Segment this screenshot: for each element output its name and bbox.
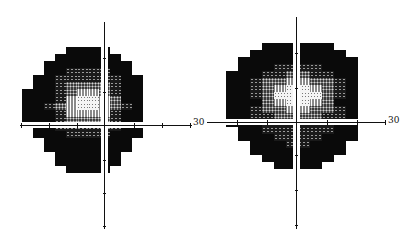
grayscale-cell xyxy=(121,138,132,145)
grayscale-cell xyxy=(88,82,99,89)
grayscale-cell xyxy=(238,85,250,92)
axis-tick xyxy=(295,190,298,191)
grayscale-cell xyxy=(55,145,66,152)
axis-tick xyxy=(295,155,298,156)
grayscale-cell xyxy=(66,68,77,75)
grayscale-cell xyxy=(262,64,274,71)
grayscale-cell xyxy=(274,141,286,148)
grayscale-cell xyxy=(346,64,358,71)
grayscale-cell xyxy=(132,82,143,89)
grayscale-cell xyxy=(310,127,322,134)
grayscale-cell xyxy=(310,64,322,71)
grayscale-cell xyxy=(33,82,44,89)
grayscale-cell xyxy=(250,127,262,134)
grayscale-cell xyxy=(334,92,346,99)
grayscale-cell xyxy=(262,106,274,113)
grayscale-cell xyxy=(334,99,346,106)
grayscale-cell xyxy=(22,110,33,117)
grayscale-cell xyxy=(310,141,322,148)
grayscale-cell xyxy=(274,78,286,85)
grayscale-cell xyxy=(33,103,44,110)
grayscale-cell xyxy=(250,106,262,113)
grayscale-cell xyxy=(322,92,334,99)
grayscale-cell xyxy=(322,43,334,50)
grayscale-cell xyxy=(274,85,286,92)
grayscale-cell xyxy=(310,50,322,57)
grayscale-cell xyxy=(88,145,99,152)
grayscale-cell xyxy=(334,57,346,64)
grayscale-cell xyxy=(226,71,238,78)
grayscale-cell xyxy=(262,50,274,57)
grayscale-cell xyxy=(310,57,322,64)
grayscale-cell xyxy=(110,82,121,89)
grayscale-cell xyxy=(88,89,99,96)
grayscale-cell xyxy=(88,159,99,166)
axis-tick xyxy=(295,53,298,54)
grayscale-cell xyxy=(322,50,334,57)
grayscale-cell xyxy=(121,145,132,152)
grayscale-cell xyxy=(226,85,238,92)
grayscale-cell xyxy=(262,99,274,106)
grayscale-cell xyxy=(132,103,143,110)
axis-tick xyxy=(327,120,328,125)
axis-tick xyxy=(190,123,191,128)
grayscale-cell xyxy=(250,64,262,71)
grayscale-cell xyxy=(132,75,143,82)
grayscale-cell xyxy=(346,85,358,92)
grayscale-cell xyxy=(310,78,322,85)
grayscale-cell xyxy=(110,61,121,68)
grayscale-cell xyxy=(250,134,262,141)
grayscale-cell xyxy=(132,89,143,96)
grayscale-cell xyxy=(55,152,66,159)
grayscale-cell xyxy=(274,43,286,50)
grayscale-cell xyxy=(77,138,88,145)
grayscale-cell xyxy=(77,68,88,75)
axis-tick xyxy=(103,193,106,194)
grayscale-cell xyxy=(110,159,121,166)
grayscale-cell xyxy=(66,89,77,96)
grayscale-cell xyxy=(66,138,77,145)
grayscale-cell xyxy=(238,71,250,78)
grayscale-cell xyxy=(121,103,132,110)
grayscale-cell xyxy=(334,141,346,148)
horizontal-axis xyxy=(207,122,386,123)
grayscale-cell xyxy=(77,166,88,173)
grayscale-cell xyxy=(274,57,286,64)
grayscale-cell xyxy=(346,127,358,134)
grayscale-cell xyxy=(44,96,55,103)
axis-tick xyxy=(295,88,298,89)
grayscale-cell xyxy=(33,131,44,138)
grayscale-cell xyxy=(262,148,274,155)
grayscale-cell xyxy=(66,166,77,173)
grayscale-cell xyxy=(334,134,346,141)
axis-tick xyxy=(103,92,106,93)
grayscale-cell xyxy=(238,92,250,99)
grayscale-cell xyxy=(110,110,121,117)
axis-tick xyxy=(385,120,386,125)
grayscale-cell xyxy=(322,78,334,85)
grayscale-cell xyxy=(274,127,286,134)
grayscale-cell xyxy=(88,68,99,75)
grayscale-cell xyxy=(250,50,262,57)
grayscale-cell xyxy=(322,134,334,141)
grayscale-cell xyxy=(33,110,44,117)
grayscale-cell xyxy=(55,110,66,117)
grayscale-cell xyxy=(110,75,121,82)
grayscale-cell xyxy=(44,145,55,152)
grayscale-cell xyxy=(310,134,322,141)
axis-tick xyxy=(295,225,298,226)
grayscale-cell xyxy=(322,64,334,71)
grayscale-cell xyxy=(226,92,238,99)
grayscale-cell xyxy=(262,71,274,78)
grayscale-cell xyxy=(66,131,77,138)
grayscale-cell xyxy=(262,43,274,50)
grayscale-cell xyxy=(88,103,99,110)
grayscale-cell xyxy=(322,141,334,148)
axis-tick xyxy=(103,58,106,59)
grayscale-cell xyxy=(77,54,88,61)
grayscale-cell xyxy=(310,99,322,106)
grayscale-cell xyxy=(250,99,262,106)
axis-tick xyxy=(357,120,358,125)
grayscale-cell xyxy=(55,68,66,75)
grayscale-cell xyxy=(274,155,286,162)
